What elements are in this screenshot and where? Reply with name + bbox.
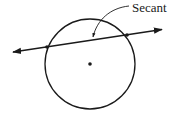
secant-label: Secant	[132, 0, 167, 16]
pointer-arrow-icon	[93, 6, 129, 37]
intersection-point-right	[125, 33, 129, 37]
secant-line	[13, 30, 162, 53]
intersection-point-left	[45, 45, 49, 49]
secant-diagram	[0, 0, 171, 125]
center-point	[88, 62, 92, 66]
